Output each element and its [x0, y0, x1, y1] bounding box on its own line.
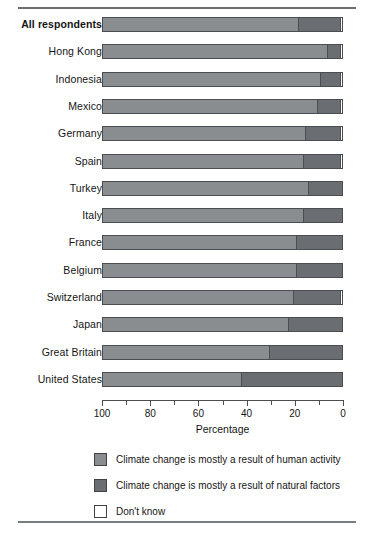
stacked-bar	[102, 126, 343, 141]
stacked-bar	[102, 72, 343, 87]
bar-segment-natural	[289, 318, 342, 331]
legend-swatch-natural	[94, 479, 107, 492]
legend: Climate change is mostly a result of hum…	[94, 448, 354, 526]
bar-row-label: Mexico	[6, 96, 102, 116]
bar-segment-human	[103, 291, 294, 304]
bar-segment-human	[103, 236, 297, 249]
bar-row-label: All respondents	[6, 14, 102, 34]
bar-segment-human	[103, 209, 304, 222]
x-axis-tick	[295, 400, 296, 406]
bar-segment-human	[103, 318, 289, 331]
x-axis-title: Percentage	[102, 423, 343, 435]
x-axis-tick-label: 60	[193, 408, 204, 420]
stacked-bar	[102, 372, 343, 387]
x-axis-tick	[102, 400, 103, 406]
bar-row: Italy	[0, 205, 368, 225]
x-axis-tick	[247, 400, 248, 406]
bar-row: United States	[0, 369, 368, 389]
bar-segment-natural	[270, 346, 342, 359]
bar-segment-human	[103, 264, 297, 277]
bar-segment-natural	[297, 264, 342, 277]
legend-label: Don't know	[116, 505, 165, 518]
bar-row-label: Switzerland	[6, 287, 102, 307]
stacked-bar	[102, 44, 343, 59]
bar-segment-dk	[340, 127, 342, 140]
bar-segment-human	[103, 346, 270, 359]
bar-segment-human	[103, 73, 321, 86]
stacked-bar	[102, 235, 343, 250]
stacked-bar	[102, 317, 343, 332]
x-axis-minor-tick	[174, 400, 175, 405]
bar-row-label: Great Britain	[6, 342, 102, 362]
bar-segment-human	[103, 155, 304, 168]
bar-row-label: Turkey	[6, 178, 102, 198]
bar-row-label: Japan	[6, 314, 102, 334]
bar-row-label: United States	[6, 369, 102, 389]
stacked-bar	[102, 290, 343, 305]
stacked-bar-chart-figure: All respondentsHong KongIndonesiaMexicoG…	[0, 0, 368, 535]
bar-segment-dk	[340, 73, 342, 86]
stacked-bar	[102, 154, 343, 169]
top-divider-rule	[18, 7, 356, 9]
legend-item: Climate change is mostly a result of nat…	[94, 474, 354, 496]
x-axis-minor-tick	[223, 400, 224, 405]
bar-row-label: Italy	[6, 205, 102, 225]
x-axis	[102, 400, 343, 408]
bar-segment-dk	[340, 18, 342, 31]
stacked-bar	[102, 99, 343, 114]
bar-segment-natural	[294, 291, 339, 304]
bar-segment-human	[103, 182, 309, 195]
bar-segment-dk	[340, 100, 342, 113]
bar-segment-natural	[299, 18, 340, 31]
bar-segment-natural	[304, 209, 342, 222]
bar-row: Mexico	[0, 96, 368, 116]
bar-row-label: Hong Kong	[6, 41, 102, 61]
bar-segment-dk	[340, 155, 342, 168]
x-axis-tick	[198, 400, 199, 406]
bar-segment-natural	[242, 373, 342, 386]
bar-segment-human	[103, 45, 328, 58]
stacked-bar	[102, 17, 343, 32]
bar-row: France	[0, 232, 368, 252]
legend-label: Climate change is mostly a result of nat…	[116, 479, 340, 492]
bar-row: Indonesia	[0, 69, 368, 89]
legend-item: Don't know	[94, 500, 354, 522]
bar-segment-human	[103, 373, 242, 386]
bar-segment-natural	[297, 236, 342, 249]
bar-segment-natural	[304, 155, 340, 168]
bar-segment-natural	[309, 182, 342, 195]
bar-segment-human	[103, 127, 306, 140]
legend-swatch-dk	[94, 505, 107, 518]
bar-row: Great Britain	[0, 342, 368, 362]
x-axis-tick-label: 80	[145, 408, 156, 420]
bar-row-label: Germany	[6, 123, 102, 143]
bar-row: Turkey	[0, 178, 368, 198]
x-axis-tick-label: 100	[94, 408, 111, 420]
bar-row: Japan	[0, 314, 368, 334]
x-axis-tick-label: 0	[340, 408, 346, 420]
bottom-divider-rule	[18, 521, 356, 523]
stacked-bar	[102, 181, 343, 196]
x-axis-tick-labels: 100806040200	[102, 408, 343, 422]
x-axis-minor-tick	[271, 400, 272, 405]
bar-segment-human	[103, 18, 299, 31]
stacked-bar	[102, 263, 343, 278]
bar-row: Hong Kong	[0, 41, 368, 61]
x-axis-tick	[343, 400, 344, 406]
bar-row-label: France	[6, 232, 102, 252]
legend-label: Climate change is mostly a result of hum…	[116, 453, 341, 466]
bar-segment-dk	[340, 291, 342, 304]
bar-segment-natural	[306, 127, 339, 140]
plot-area: All respondentsHong KongIndonesiaMexicoG…	[0, 12, 368, 396]
bar-segment-human	[103, 100, 318, 113]
bar-segment-natural	[321, 73, 340, 86]
legend-item: Climate change is mostly a result of hum…	[94, 448, 354, 470]
bar-segment-natural	[328, 45, 340, 58]
legend-swatch-human	[94, 453, 107, 466]
stacked-bar	[102, 345, 343, 360]
x-axis-tick-label: 40	[241, 408, 252, 420]
x-axis-tick-label: 20	[289, 408, 300, 420]
stacked-bar	[102, 208, 343, 223]
bar-segment-natural	[318, 100, 340, 113]
x-axis-tick	[150, 400, 151, 406]
